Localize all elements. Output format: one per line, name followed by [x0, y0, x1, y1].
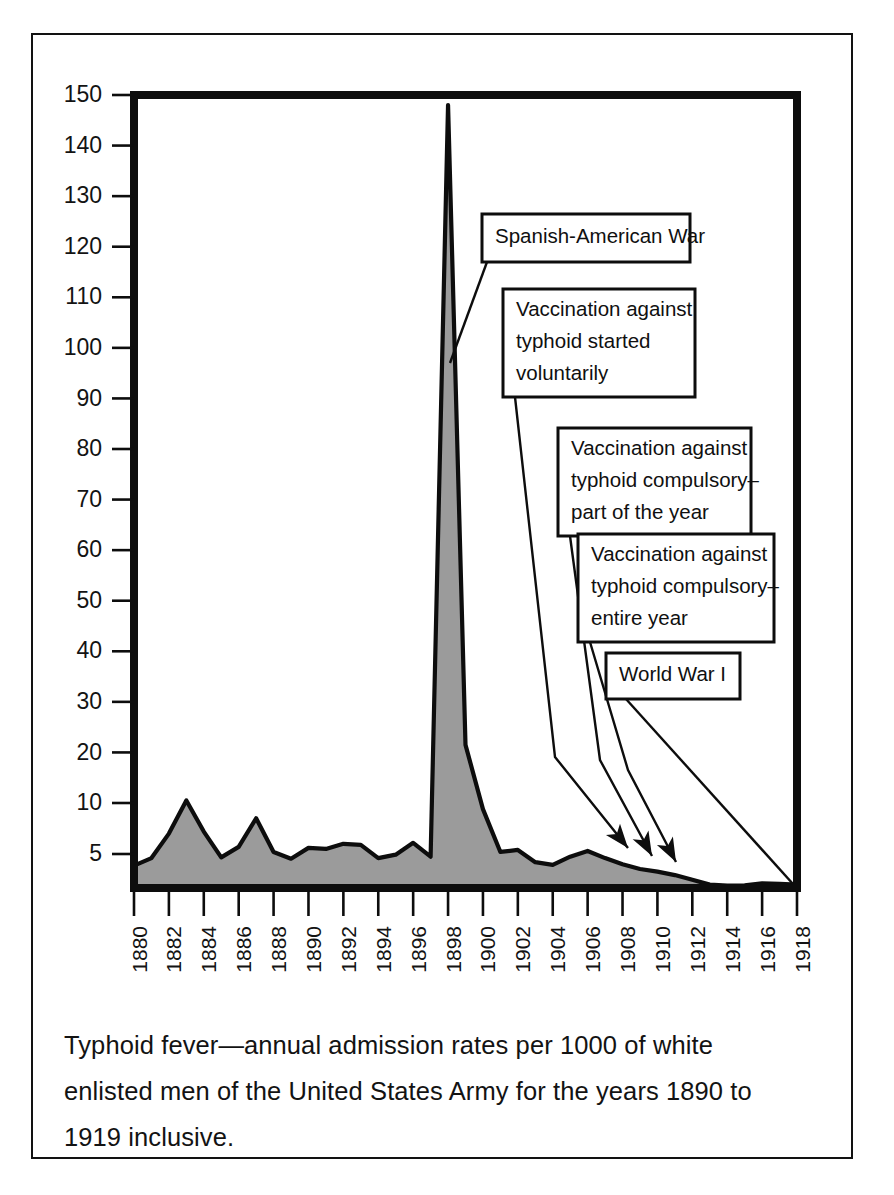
x-tick-label: 1888	[267, 926, 290, 973]
annotation-label-vaccination-voluntary: voluntarily	[516, 361, 609, 384]
x-tick-label: 1916	[756, 926, 779, 973]
typhoid-fever-figure: 1501401301201101009080706050403020105 18…	[0, 0, 894, 1195]
x-tick-label: 1886	[232, 926, 255, 973]
annotation-label-vaccination-compulsory-part: typhoid compulsory–	[571, 468, 760, 491]
x-tick-label: 1904	[546, 926, 569, 973]
y-tick-label: 150	[64, 81, 102, 107]
x-tick-label: 1894	[372, 926, 395, 973]
x-tick-label: 1880	[128, 926, 151, 973]
y-tick-label: 90	[76, 385, 102, 411]
y-tick-label: 30	[76, 688, 102, 714]
y-tick-label: 110	[65, 283, 102, 309]
y-axis: 1501401301201101009080706050403020105	[64, 81, 134, 866]
x-tick-label: 1914	[721, 926, 744, 973]
x-tick-label: 1890	[302, 926, 325, 973]
annotation-label-vaccination-compulsory-entire: typhoid compulsory–	[591, 574, 780, 597]
y-tick-label: 60	[76, 536, 102, 562]
annotation-label-vaccination-compulsory-part: part of the year	[571, 500, 709, 523]
caption-line-3: 1919 inclusive.	[64, 1114, 824, 1160]
y-tick-label: 80	[76, 435, 102, 461]
y-tick-label: 5	[89, 840, 102, 866]
x-tick-label: 1918	[791, 926, 814, 973]
x-tick-label: 1882	[162, 926, 185, 973]
annotation-label-vaccination-compulsory-entire: Vaccination against	[591, 542, 768, 565]
annotation-label-world-war-i: World War I	[619, 662, 726, 685]
x-tick-label: 1884	[197, 926, 220, 973]
y-tick-label: 120	[64, 233, 102, 259]
x-tick-label: 1892	[337, 926, 360, 973]
x-tick-label: 1898	[442, 926, 465, 973]
caption-line-1: Typhoid fever—annual admission rates per…	[64, 1022, 824, 1068]
figure-caption: Typhoid fever—annual admission rates per…	[64, 1022, 824, 1160]
y-tick-label: 70	[76, 486, 102, 512]
x-tick-label: 1906	[581, 926, 604, 973]
x-tick-label: 1908	[616, 926, 639, 973]
x-tick-label: 1912	[686, 926, 709, 973]
y-tick-label: 20	[76, 739, 102, 765]
y-tick-label: 40	[76, 637, 102, 663]
x-tick-label: 1896	[407, 926, 430, 973]
x-tick-label: 1910	[651, 926, 674, 973]
y-tick-label: 100	[64, 334, 102, 360]
x-axis: 1880188218841886188818901892189418961898…	[128, 892, 814, 973]
y-tick-label: 10	[76, 789, 102, 815]
x-tick-label: 1902	[511, 926, 534, 973]
annotation-label-vaccination-compulsory-part: Vaccination against	[571, 436, 748, 459]
annotation-label-vaccination-voluntary: Vaccination against	[516, 297, 693, 320]
annotation-label-vaccination-voluntary: typhoid started	[516, 329, 650, 352]
caption-line-2: enlisted men of the United States Army f…	[64, 1068, 824, 1114]
x-tick-label: 1900	[476, 926, 499, 973]
annotation-label-spanish-american-war: Spanish-American War	[495, 224, 705, 247]
annotation-label-vaccination-compulsory-entire: entire year	[591, 606, 688, 629]
y-tick-label: 50	[76, 587, 102, 613]
y-tick-label: 130	[64, 182, 102, 208]
chart-canvas: 1501401301201101009080706050403020105 18…	[0, 0, 894, 1195]
y-tick-label: 140	[64, 132, 102, 158]
